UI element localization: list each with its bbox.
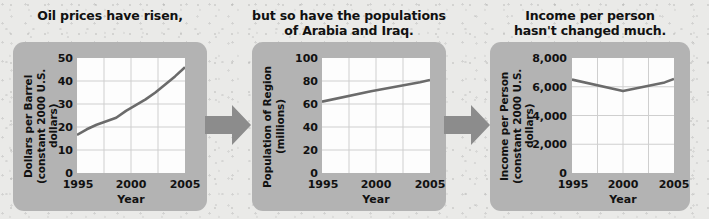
y-tick-1-40: 40 — [46, 75, 73, 88]
y-tick-1-30: 30 — [46, 98, 73, 111]
y-tick-3-4000: 4,000 — [524, 109, 567, 122]
y-tick-1-20: 20 — [46, 121, 73, 134]
line-chart-population — [322, 58, 430, 173]
y-tick-1-50: 50 — [46, 52, 73, 65]
y-tick-2-60: 60 — [285, 98, 318, 111]
three-panel-line-chart-figure: Oil prices have risen, Dollars per Barre… — [0, 0, 709, 219]
x-axis-label-2: Year — [322, 193, 430, 206]
x-axis-label-3: Year — [572, 193, 674, 206]
x-tick-3-1995: 1995 — [552, 178, 594, 191]
x-tick-1-2005: 2005 — [164, 178, 206, 191]
line-chart-income — [572, 58, 674, 173]
y-tick-1-10: 10 — [46, 144, 73, 157]
x-tick-3-2000: 2000 — [602, 178, 644, 191]
y-tick-2-80: 80 — [285, 75, 318, 88]
y-tick-2-40: 40 — [285, 121, 318, 134]
y-tick-2-20: 20 — [285, 144, 318, 157]
x-axis-label-1: Year — [77, 193, 185, 206]
line-chart-oil-prices — [77, 58, 185, 173]
y-axis-label-3: Income per Person (constant 2000 U.S. do… — [498, 46, 526, 206]
x-tick-1-1995: 1995 — [57, 178, 99, 191]
x-tick-2-1995: 1995 — [302, 178, 344, 191]
y-tick-3-2000: 2,000 — [524, 138, 567, 151]
panel-title-2: but so have the populations of Arabia an… — [246, 9, 452, 38]
y-tick-3-8000: 8,000 — [524, 52, 567, 65]
panel-title-3: Income per person hasn't changed much. — [486, 9, 694, 38]
y-tick-3-6000: 6,000 — [524, 80, 567, 93]
y-tick-2-100: 100 — [285, 52, 318, 65]
arrow-right-icon-2 — [444, 103, 490, 147]
x-tick-1-2000: 2000 — [110, 178, 152, 191]
panel-title-1: Oil prices have risen, — [8, 9, 212, 24]
x-tick-2-2000: 2000 — [355, 178, 397, 191]
x-tick-3-2005: 2005 — [653, 178, 695, 191]
arrow-right-icon-1 — [205, 103, 251, 147]
x-tick-2-2005: 2005 — [409, 178, 451, 191]
